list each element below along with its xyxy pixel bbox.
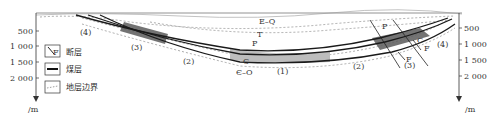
left-tick-1000: 1 000 <box>10 42 33 51</box>
axis-arrow-icon <box>456 96 462 102</box>
label-eq: E–Q <box>259 17 276 26</box>
label-p-right: P <box>382 22 388 31</box>
right-axis-unit: /m <box>465 105 476 114</box>
right-tick-500: 500 <box>464 24 479 33</box>
zone-label-2-right: (2) <box>353 62 364 71</box>
left-axis-unit: /m <box>28 105 39 114</box>
cross-section-diagram: 500 1 000 1 500 2 000 /m 500 1 000 1 500… <box>0 0 491 120</box>
fault-label-1: F <box>406 55 412 64</box>
left-tick-500: 500 <box>18 27 33 36</box>
legend-item-coal-seam: 煤层 <box>45 63 82 75</box>
terrain-surface <box>36 10 462 18</box>
label-eo: Є–O <box>236 68 253 77</box>
legend-item-fault: F 断层 <box>45 45 82 57</box>
zone-label-4-right: (4) <box>437 40 448 49</box>
svg-text:F: F <box>53 48 59 57</box>
label-t: T <box>257 30 263 39</box>
legend: F 断层 煤层 地层边界 <box>45 45 98 93</box>
label-p-center: P <box>252 39 258 48</box>
legend-label-fault: 断层 <box>66 47 82 57</box>
left-tick-2000: 2 000 <box>10 74 33 83</box>
axis-arrow-icon <box>33 96 39 102</box>
left-depth-axis: 500 1 000 1 500 2 000 /m <box>10 13 39 114</box>
legend-label-stratum-boundary: 地层边界 <box>66 82 98 92</box>
stratum-boundary-icon <box>45 81 60 93</box>
legend-item-stratum-boundary: 地层边界 <box>45 81 98 93</box>
label-c-right: C <box>417 36 423 45</box>
fault-label-2: F <box>424 44 430 53</box>
left-tick-1500: 1 500 <box>10 58 33 67</box>
zone-label-3-left: (3) <box>131 43 142 52</box>
zone-label-1: (1) <box>277 67 288 76</box>
label-c-center: C <box>243 57 249 66</box>
zone-label-2-left: (2) <box>183 57 194 66</box>
right-tick-1500: 1 500 <box>464 56 487 65</box>
zone-label-4-left: (4) <box>80 28 91 37</box>
right-tick-2000: 2 000 <box>464 72 487 81</box>
right-depth-axis: 500 1 000 1 500 2 000 /m <box>456 13 487 114</box>
fault-arrow-1 <box>398 52 405 60</box>
right-tick-1000: 1 000 <box>464 40 487 49</box>
legend-label-coal-seam: 煤层 <box>66 64 82 74</box>
